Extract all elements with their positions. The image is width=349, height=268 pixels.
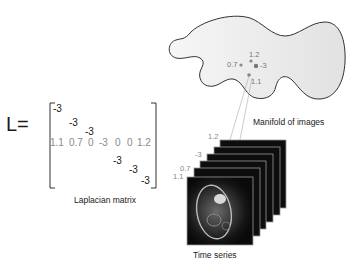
matrix-entry: 0 (88, 137, 94, 148)
matrix-entry: -3 (69, 117, 78, 128)
matrix-entry: 1.1 (50, 137, 64, 148)
matrix-entry: 0 (127, 137, 133, 148)
matrix-entry: -3 (129, 164, 138, 175)
frame-label: -3 (195, 150, 202, 159)
time-series-stack (187, 140, 286, 245)
frame-label: 1.2 (208, 132, 218, 141)
diagram-graphics (0, 0, 349, 268)
manifold-point-1-2 (249, 59, 252, 62)
matrix-entry: 1.2 (137, 137, 151, 148)
frame-label: 1.1 (173, 172, 183, 181)
laplacian-symbol: L= (6, 113, 29, 136)
matrix-entry: 0.7 (69, 137, 83, 148)
matrix-entry: 0 (115, 137, 121, 148)
matrix-entry: -3 (85, 126, 94, 137)
manifold-point-0-7 (239, 63, 242, 66)
manifold-label: 0.7 (227, 60, 237, 69)
manifold-point-center (254, 64, 258, 68)
matrix-entry: -3 (113, 155, 122, 166)
manifold-label: 1.2 (249, 50, 259, 59)
matrix-entry: -3 (53, 103, 62, 114)
matrix-entry: -3 (99, 137, 108, 148)
manifold-label: -3 (260, 61, 267, 70)
laplacian-caption: Laplacian matrix (74, 195, 136, 205)
manifold-label: 1.1 (251, 77, 261, 86)
time-series-caption: Time series (193, 250, 237, 260)
matrix-right-bracket (151, 103, 156, 188)
manifold-caption: Manifold of images (253, 117, 324, 127)
matrix-entry: -3 (141, 175, 150, 186)
